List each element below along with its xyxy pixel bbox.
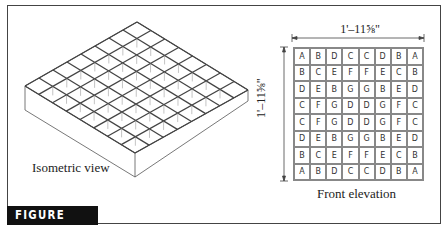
grid-cell: G (376, 115, 390, 130)
grid-cell: B (408, 66, 422, 81)
grid-cell: C (360, 49, 374, 64)
grid-cell: G (360, 132, 374, 147)
grid-cell: B (295, 66, 309, 81)
grid-cell: C (295, 99, 309, 114)
grid-cell: A (295, 165, 309, 180)
elevation-grid: ABDCCDBABCEFFECBDEBGGBEDCFGDDGFCCFGDDGFC… (293, 47, 424, 181)
figure-label: FIGURE 14-17 (7, 206, 98, 225)
grid-cell: E (392, 132, 406, 147)
grid-cell: E (327, 148, 341, 163)
grid-cell: F (311, 115, 325, 130)
grid-cell: B (392, 49, 406, 64)
grid-cell: F (343, 66, 357, 81)
grid-cell: F (392, 99, 406, 114)
grid-cell: A (408, 165, 422, 180)
grid-cell: C (392, 66, 406, 81)
front-elevation-caption: Front elevation (317, 186, 396, 202)
grid-cell: D (343, 99, 357, 114)
grid-cell: E (376, 66, 390, 81)
grid-cell: E (327, 66, 341, 81)
grid-cell: C (295, 115, 309, 130)
figure-label-text: FIGURE 14-17 (15, 206, 86, 233)
grid-cell: D (376, 49, 390, 64)
grid-cell: C (343, 49, 357, 64)
grid-cell: F (360, 66, 374, 81)
grid-cell: C (343, 165, 357, 180)
grid-cell: C (311, 66, 325, 81)
grid-cell: D (343, 115, 357, 130)
grid-cell: C (392, 148, 406, 163)
grid-cell: F (360, 148, 374, 163)
grid-cell: G (343, 82, 357, 97)
grid-cell: D (408, 82, 422, 97)
height-dimension-label: 1'–11⅝" (254, 78, 269, 118)
grid-cell: E (311, 132, 325, 147)
grid-cell: G (327, 99, 341, 114)
grid-cell: C (360, 165, 374, 180)
grid-cell: B (376, 82, 390, 97)
grid-cell: D (295, 132, 309, 147)
grid-cell: E (392, 82, 406, 97)
grid-cell: A (408, 49, 422, 64)
grid-cell: G (376, 99, 390, 114)
grid-cell: F (343, 148, 357, 163)
grid-cell: D (376, 165, 390, 180)
grid-cell: B (311, 165, 325, 180)
grid-cell: G (343, 132, 357, 147)
grid-cell: E (376, 148, 390, 163)
grid-cell: B (295, 148, 309, 163)
grid-cell: D (327, 49, 341, 64)
grid-cell: B (311, 49, 325, 64)
grid-cell: G (360, 82, 374, 97)
width-dimension-label: 1'–11⅝" (290, 22, 430, 37)
grid-cell: B (392, 165, 406, 180)
grid-cell: C (408, 99, 422, 114)
grid-cell: D (327, 165, 341, 180)
grid-cell: B (327, 132, 341, 147)
grid-cell: G (327, 115, 341, 130)
grid-cell: D (360, 115, 374, 130)
grid-cell: D (295, 82, 309, 97)
grid-cell: B (408, 148, 422, 163)
grid-cell: A (295, 49, 309, 64)
grid-cell: D (408, 132, 422, 147)
grid-cell: C (408, 115, 422, 130)
grid-cell: D (360, 99, 374, 114)
grid-cell: B (327, 82, 341, 97)
grid-cell: F (311, 99, 325, 114)
grid-cell: C (311, 148, 325, 163)
grid-cell: E (311, 82, 325, 97)
grid-cell: F (392, 115, 406, 130)
grid-cell: B (376, 132, 390, 147)
